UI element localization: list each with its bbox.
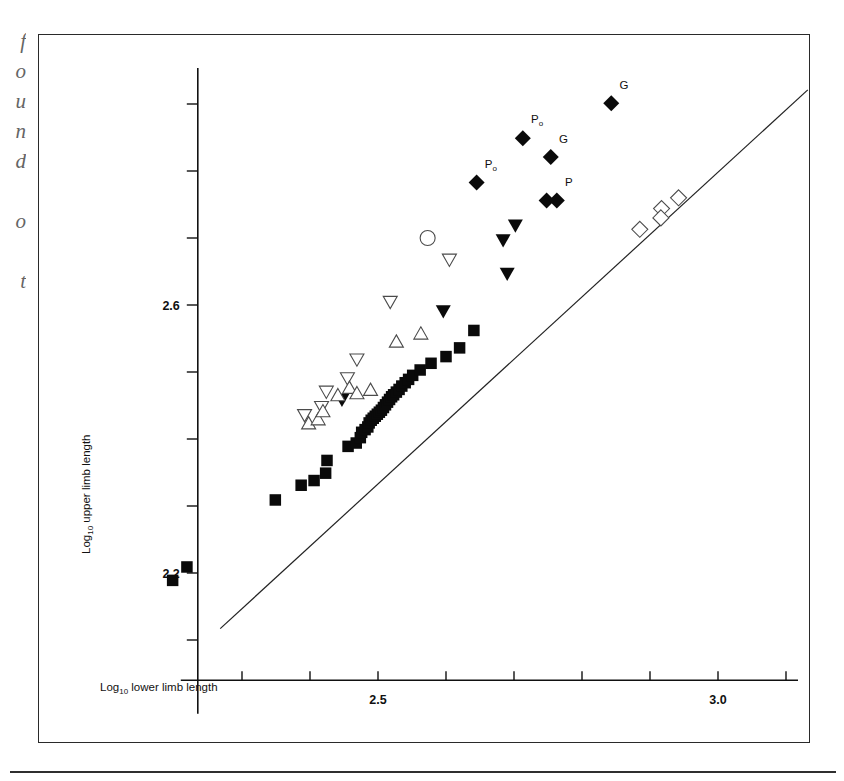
point-label-0: Po xyxy=(485,158,498,173)
data-point-open-diamond-0 xyxy=(632,221,648,237)
data-point-open-circle-0 xyxy=(420,231,435,246)
y-axis-title: Log10 upper limb length xyxy=(80,434,95,554)
margin-text-fragment: f o u n d o t xyxy=(0,26,26,326)
page-footer-rule xyxy=(10,771,836,773)
regression-line xyxy=(220,90,808,629)
data-point-filled-square-3 xyxy=(295,479,307,491)
data-point-open-down-triangle-2 xyxy=(319,386,333,398)
x-tick-label-2: 2.5 xyxy=(369,693,386,707)
y-tick-label-5: 2.6 xyxy=(162,299,179,313)
x-axis-title: Log10 lower limb length xyxy=(100,681,218,696)
point-label-1: Po xyxy=(531,113,544,128)
data-point-filled-square-4 xyxy=(308,475,320,487)
data-point-open-down-triangle-4 xyxy=(350,354,364,366)
data-point-filled-square-0 xyxy=(167,575,179,587)
plot-canvas: 2.53.02.22.6 PoPoGPG Log10 lower limb le… xyxy=(38,34,810,743)
data-point-open-down-triangle-6 xyxy=(442,254,456,266)
data-point-filled-square-32 xyxy=(414,364,426,376)
point-annotations-group: PoPoGPG xyxy=(485,79,629,188)
data-point-filled-square-35 xyxy=(454,342,466,354)
data-point-filled-down-triangle-3 xyxy=(496,234,511,247)
figure-page: f o u n d o t 2.53.02.22.6 PoPoGPG Log10… xyxy=(0,0,844,781)
data-point-open-down-triangle-5 xyxy=(383,296,397,308)
data-point-filled-diamond-2 xyxy=(543,149,559,165)
data-point-open-down-triangle-3 xyxy=(340,373,354,385)
scatter-plot: 2.53.02.22.6 PoPoGPG Log10 lower limb le… xyxy=(38,34,810,743)
data-point-filled-square-5 xyxy=(320,467,332,479)
data-point-filled-down-triangle-1 xyxy=(436,305,451,318)
data-point-filled-down-triangle-2 xyxy=(500,268,515,281)
data-point-open-up-triangle-6 xyxy=(364,383,378,395)
data-point-filled-square-36 xyxy=(468,325,480,337)
data-point-filled-diamond-1 xyxy=(515,130,531,146)
point-label-3: P xyxy=(565,176,573,188)
point-label-2: G xyxy=(559,133,568,145)
data-points-group xyxy=(167,95,687,586)
data-point-open-up-triangle-7 xyxy=(389,335,403,347)
data-point-filled-square-33 xyxy=(425,358,437,370)
data-point-filled-square-34 xyxy=(440,351,452,363)
x-tick-label-7: 3.0 xyxy=(709,693,726,707)
data-point-filled-diamond-4 xyxy=(549,192,565,208)
data-point-filled-square-1 xyxy=(181,561,193,573)
point-label-4: G xyxy=(619,79,628,91)
data-point-filled-diamond-0 xyxy=(469,174,485,190)
data-point-filled-square-6 xyxy=(321,455,333,467)
data-point-filled-down-triangle-4 xyxy=(508,220,523,233)
data-point-filled-diamond-5 xyxy=(603,95,619,111)
data-point-open-up-triangle-8 xyxy=(414,327,428,339)
data-point-filled-square-2 xyxy=(270,494,282,506)
regression-line-path xyxy=(220,90,808,629)
